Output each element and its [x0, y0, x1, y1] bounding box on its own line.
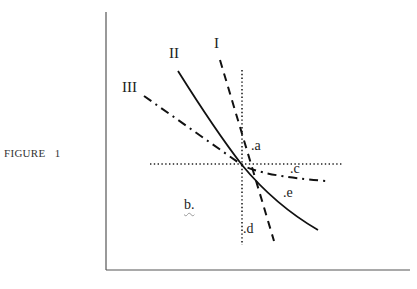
point-label-d: .d: [243, 222, 254, 236]
curve-label-III: III: [122, 80, 137, 95]
curve-label-I: I: [214, 36, 219, 51]
point-label-c: .c: [290, 162, 300, 176]
curve-I: [220, 60, 274, 241]
curve-label-II: II: [169, 46, 179, 61]
curve-II: [178, 71, 318, 230]
point-label-a: .a: [251, 139, 261, 153]
point-label-e: .e: [283, 186, 293, 200]
point-label-b: b.: [184, 198, 195, 212]
diagram-canvas: [0, 0, 417, 289]
